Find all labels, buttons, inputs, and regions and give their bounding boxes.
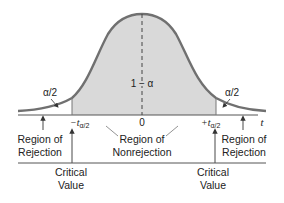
right-region-label-1: Region of	[222, 133, 267, 145]
left-critical-caption-1: Critical	[55, 166, 87, 178]
center-region-label-2: Nonrejection	[113, 146, 172, 158]
left-tail-area-label: α/2	[43, 87, 58, 98]
right-critical-prefix: +t	[201, 117, 211, 128]
nonrejection-left-pointer	[106, 126, 118, 136]
right-region-label-2: Rejection	[222, 146, 266, 158]
zero-tick-label: 0	[139, 117, 145, 128]
nonrejection-right-pointer	[166, 126, 178, 136]
left-critical-value-label: −tα/2	[70, 117, 90, 129]
center-region-label-1: Region of	[120, 133, 165, 145]
right-critical-caption-1: Critical	[197, 166, 229, 178]
right-tail-area-label: α/2	[225, 87, 240, 98]
left-critical-caption-2: Value	[58, 179, 84, 191]
right-critical-value-label: +tα/2	[201, 117, 221, 129]
right-critical-subscript: α/2	[211, 122, 221, 129]
left-critical-subscript: α/2	[80, 122, 90, 129]
left-region-label-2: Rejection	[18, 146, 62, 158]
left-critical-prefix: −t	[70, 117, 80, 128]
right-critical-caption-2: Value	[200, 179, 226, 191]
center-area-label: 1 − α	[131, 78, 154, 89]
t-distribution-diagram: 1 − α α/2 α/2 0 t −tα/2 +tα/2 Region of …	[0, 0, 284, 203]
axis-variable-label: t	[260, 116, 264, 128]
left-region-label-1: Region of	[18, 133, 63, 145]
